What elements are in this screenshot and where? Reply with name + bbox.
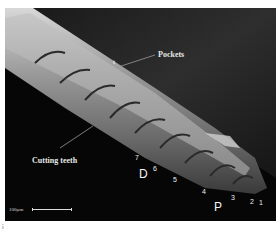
tooth-number-5: 5 [173,176,177,183]
pockets-label: Pockets [158,51,184,59]
tooth-number-7: 7 [135,154,139,161]
tooth-number-6: 6 [153,165,157,172]
tooth-number-4: 4 [202,188,206,195]
scale-bar-label: 100µm [9,207,23,212]
scale-bar [32,208,72,211]
tooth-number-1: 1 [259,199,263,206]
proximal-label: P [214,201,222,213]
specimen-drawing [5,8,276,221]
cutting-teeth-label: Cutting teeth [32,157,77,165]
tooth-number-3: 3 [231,194,235,201]
corner-mark: ⅰ [2,223,4,230]
sem-micrograph: Pockets Cutting teeth t 7 6 5 4 3 2 1 D … [5,8,276,221]
tooth-number-2: 2 [250,198,254,205]
distal-label: D [139,168,148,180]
marker-t: t [113,59,115,65]
